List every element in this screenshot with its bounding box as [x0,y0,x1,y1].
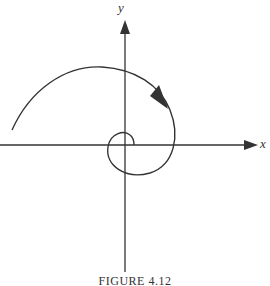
x-axis-arrow-icon [244,140,258,150]
spiral-curve [12,67,175,175]
phase-portrait [0,0,270,286]
y-axis-arrow-icon [120,20,130,34]
x-axis [0,140,258,150]
x-axis-label: x [260,136,266,152]
y-axis-label: y [118,0,124,16]
figure-caption: FIGURE 4.12 [0,274,270,286]
y-axis [120,20,130,272]
